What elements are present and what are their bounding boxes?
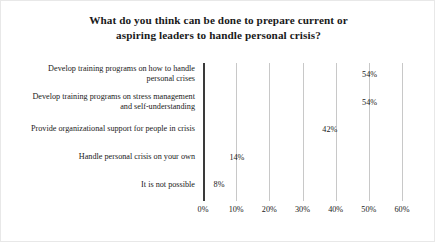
chart-title: What do you think can be done to prepare… — [31, 13, 406, 43]
bar-row[interactable]: 14% — [203, 151, 249, 164]
plot-area: 54%54%42%14%8% — [203, 63, 402, 201]
category-label-3: Handle personal crisis on your own — [3, 152, 195, 163]
x-axis-tick-labels: 0%10%20%30%40%50%60% — [203, 204, 402, 218]
bar-value-label: 54% — [203, 68, 382, 81]
category-label-0: Develop training programs on how to hand… — [3, 64, 195, 85]
axis-line-zero — [203, 63, 205, 201]
bar-value-label: 14% — [203, 151, 249, 164]
bar-value-label: 54% — [203, 96, 382, 109]
bar-row[interactable]: 8% — [203, 178, 230, 191]
gridline-60 — [402, 63, 403, 201]
chart-title-line-1: What do you think can be done to prepare… — [31, 13, 406, 28]
chart-figure: What do you think can be done to prepare… — [0, 0, 435, 242]
bar-row[interactable]: 54% — [203, 68, 382, 81]
chart-title-line-2: aspiring leaders to handle personal cris… — [31, 28, 406, 43]
category-label-2: Provide organizational support for peopl… — [3, 124, 195, 135]
bar-value-label: 42% — [203, 123, 342, 136]
category-label-4: It is not possible — [3, 180, 195, 191]
bar-series: 54%54%42%14%8% — [203, 63, 402, 201]
category-axis-labels: Develop training programs on how to hand… — [5, 63, 199, 201]
bar-value-label: 8% — [203, 178, 230, 191]
category-label-1: Develop training programs on stress mana… — [3, 92, 195, 113]
bar-row[interactable]: 54% — [203, 96, 382, 109]
bar-row[interactable]: 42% — [203, 123, 342, 136]
x-tick-60: 60% — [382, 204, 422, 215]
